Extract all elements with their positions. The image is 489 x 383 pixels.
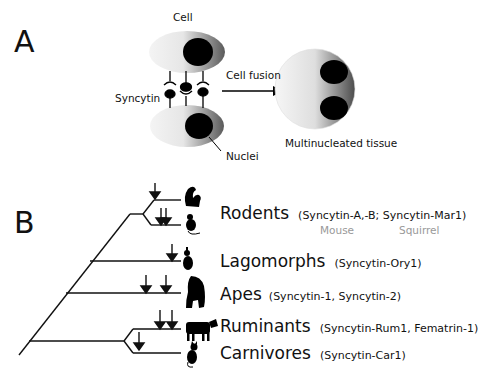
- clade-carnivores: Carnivores (Syncytin-Car1): [220, 343, 406, 363]
- top-cell: [149, 31, 225, 73]
- multinucleated-tissue-label: Multinucleated tissue: [285, 137, 397, 149]
- clade-apes: Apes (Syncytin-1, Syncytin-2): [220, 284, 401, 304]
- squirrel-icon: [185, 187, 201, 207]
- gene-list: (Syncytin-Ory1): [335, 257, 422, 270]
- clade-name: Ruminants: [220, 316, 311, 336]
- ape-icon: [186, 276, 205, 308]
- cow-icon: [186, 319, 218, 341]
- species-squirrel: Squirrel: [399, 224, 440, 236]
- clade-ruminants: Ruminants (Syncytin-Rum1, Fematrin-1): [220, 316, 478, 336]
- cell-label: Cell: [173, 11, 193, 23]
- clade-name: Rodents: [220, 203, 289, 223]
- cell-fusion-label: Cell fusion: [226, 69, 281, 81]
- gene-list: (Syncytin-Rum1, Fematrin-1): [320, 322, 479, 335]
- syncytin-molecules: [164, 71, 209, 108]
- multinucleated-cell: [275, 49, 355, 129]
- clade-name: Carnivores: [220, 343, 311, 363]
- clade-name: Apes: [220, 284, 262, 304]
- clade-lagomorphs: Lagomorphs (Syncytin-Ory1): [220, 251, 421, 271]
- bottom-cell: [150, 105, 224, 147]
- clade-name: Lagomorphs: [220, 251, 325, 271]
- cell-fusion-arrow: [222, 86, 283, 96]
- gene-capture-arrows: [134, 183, 177, 350]
- nuclei-label: Nuclei: [226, 150, 259, 162]
- species-mouse: Mouse: [320, 224, 354, 236]
- gene-list: (Syncytin-1, Syncytin-2): [269, 290, 401, 303]
- panel-b-letter: B: [14, 205, 35, 240]
- phylogenetic-tree: [19, 200, 181, 355]
- cat-icon: [187, 341, 198, 367]
- rabbit-icon: [183, 247, 193, 270]
- gene-list: (Syncytin-Car1): [320, 349, 406, 362]
- clade-rodents: Rodents (Syncytin-A,-B; Syncytin-Mar1): [220, 203, 466, 223]
- mouse-icon: [186, 214, 200, 234]
- gene-list: (Syncytin-A,-B; Syncytin-Mar1): [298, 209, 466, 222]
- syncytin-label: Syncytin: [115, 92, 160, 104]
